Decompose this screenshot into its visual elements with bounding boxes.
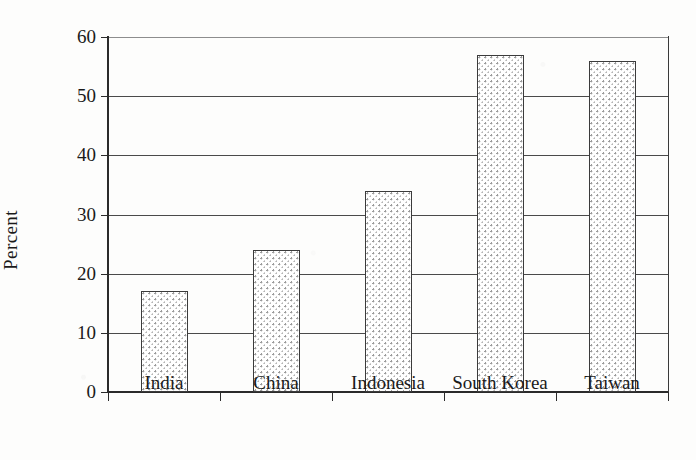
gridline-50 [108, 96, 668, 97]
x-tick-mark-4 [556, 392, 557, 401]
y-tick-label-0: 0 [87, 381, 97, 403]
x-tick-mark-1 [220, 392, 221, 401]
bar-chart-figure: Percent 0102030405060 IndiaChinaIndonesi… [0, 0, 696, 460]
bar-taiwan [589, 61, 636, 392]
plot-right-border [668, 36, 669, 393]
x-axis-label-india: India [144, 372, 183, 394]
y-tick-mark-10 [101, 333, 109, 334]
bar-indonesia [365, 191, 412, 392]
x-tick-mark-0 [108, 392, 109, 401]
gridline-40 [108, 155, 668, 156]
x-axis-label-indonesia: Indonesia [351, 372, 425, 394]
y-tick-label-60: 60 [77, 26, 96, 48]
y-tick-label-40: 40 [77, 144, 96, 166]
y-tick-mark-60 [101, 37, 109, 38]
gridline-60 [108, 37, 668, 38]
y-tick-label-10: 10 [77, 322, 96, 344]
y-tick-label-30: 30 [77, 204, 96, 226]
x-axis-label-taiwan: Taiwan [584, 372, 640, 394]
y-axis-title: Percent [0, 170, 26, 310]
plot-area: 0102030405060 [108, 37, 668, 392]
y-tick-label-50: 50 [77, 85, 96, 107]
bar-south-korea [477, 55, 524, 392]
y-tick-mark-30 [101, 215, 109, 216]
y-tick-mark-20 [101, 274, 109, 275]
bar-china [253, 250, 300, 392]
x-tick-mark-5 [668, 392, 669, 401]
y-tick-mark-40 [101, 155, 109, 156]
x-tick-mark-2 [332, 392, 333, 401]
x-axis-label-china: China [253, 372, 298, 394]
x-axis-label-south-korea: South Korea [452, 372, 548, 394]
y-tick-label-20: 20 [77, 263, 96, 285]
y-tick-mark-50 [101, 96, 109, 97]
x-tick-mark-3 [444, 392, 445, 401]
